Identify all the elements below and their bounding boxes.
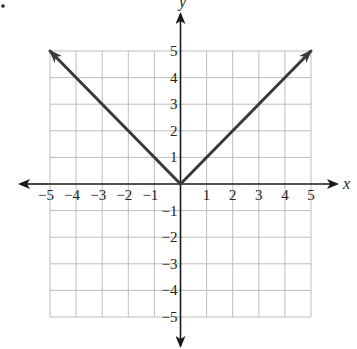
- x-tick-label: 3: [255, 187, 263, 203]
- y-axis-label: y: [177, 0, 187, 11]
- y-tick-label: −5: [162, 309, 178, 325]
- x-tick-label: 4: [281, 187, 289, 203]
- series-right-branch: [181, 51, 312, 184]
- x-tick-label: −5: [38, 187, 54, 203]
- y-tick-label: −2: [162, 229, 178, 245]
- y-tick-label: −4: [162, 282, 178, 298]
- x-tick-label: −2: [116, 187, 132, 203]
- y-tick-label: 5: [170, 43, 178, 59]
- x-tick-label: −4: [64, 187, 80, 203]
- y-tick-label: −3: [162, 256, 178, 272]
- y-tick-label: 4: [170, 70, 178, 86]
- y-tick-label: −1: [162, 203, 178, 219]
- x-axis-label: x: [342, 175, 350, 192]
- x-tick-label: −3: [90, 187, 106, 203]
- x-tick-label: 2: [229, 187, 237, 203]
- x-tick-label: 5: [307, 187, 315, 203]
- y-tick-label: 1: [170, 149, 178, 165]
- problem-bullet: [1, 4, 5, 8]
- x-tick-label: 1: [203, 187, 211, 203]
- y-tick-label: 2: [170, 123, 178, 139]
- series-left-branch: [50, 51, 181, 184]
- absolute-value-graph: −5−4−3−2−112345 −5−4−3−2−112345 x y: [0, 0, 357, 349]
- y-tick-label: 3: [170, 96, 178, 112]
- x-tick-labels: −5−4−3−2−112345: [38, 187, 315, 203]
- x-tick-label: −1: [142, 187, 158, 203]
